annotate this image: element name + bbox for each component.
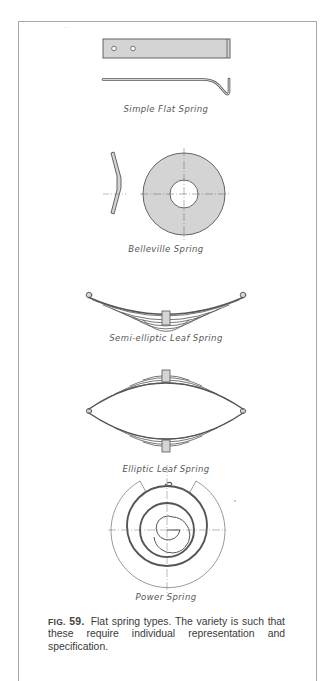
semi-elliptic-leaf-spring — [86, 292, 246, 331]
figure-number-prefix: FIG. — [48, 617, 66, 627]
label-belleville-spring: Belleville Spring — [128, 244, 203, 254]
label-semi-elliptic-leaf-spring: Semi-elliptic Leaf Spring — [109, 333, 222, 343]
belleville-spring-side-view — [103, 152, 126, 214]
figure-number-value: 59. — [69, 615, 85, 627]
label-power-spring: Power Spring — [136, 592, 197, 602]
simple-flat-spring-side-view — [103, 79, 229, 94]
elliptic-leaf-spring — [86, 370, 245, 452]
belleville-spring-front-view — [140, 148, 230, 240]
power-spring — [108, 465, 236, 597]
label-simple-flat-spring: Simple Flat Spring — [124, 104, 209, 114]
label-elliptic-leaf-spring: Elliptic Leaf Spring — [122, 464, 209, 474]
simple-flat-spring-top-view — [103, 39, 230, 58]
figure-number: FIG. 59. — [48, 617, 85, 627]
figure-caption: FIG. 59.Flat spring types. The variety i… — [48, 615, 285, 653]
